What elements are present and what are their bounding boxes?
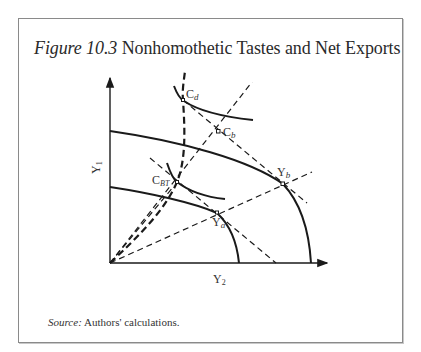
label-yb: Yb [277,165,291,180]
label-cd: Cd [186,87,199,102]
y-axis-label: Y1 [89,161,104,174]
lower-price-line [150,158,276,263]
income-expansion-path [110,71,185,263]
diagram: Cd Cb CBT Yb Ya Y2 Y1 [0,0,421,352]
ray-through-cbt [110,186,174,263]
consumption-ray [110,82,252,263]
source-text: Authors' calculations. [84,316,179,328]
label-cbt: CBT [152,173,170,188]
upper-price-line [183,100,307,203]
source-note: Source: Authors' calculations. [48,316,179,328]
point-ya-marker [216,211,219,214]
point-cbt-marker [176,181,179,184]
point-cd-marker [182,99,185,102]
x-axis-label: Y2 [213,272,226,287]
point-cb-marker [217,130,221,134]
label-ya: Ya [212,215,226,230]
point-yb-marker [281,182,285,186]
source-label: Source: [48,316,82,328]
label-cb: Cb [223,125,236,140]
